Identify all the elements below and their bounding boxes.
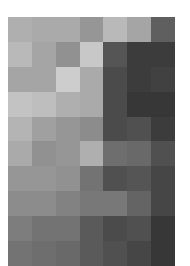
heatmap-cell — [32, 17, 56, 42]
heatmap-cell — [151, 42, 175, 67]
heatmap-cell — [127, 67, 151, 92]
heatmap-cell — [151, 191, 175, 216]
heatmap-cell — [151, 67, 175, 92]
heatmap-cell — [103, 216, 127, 241]
heatmap-cell — [80, 67, 104, 92]
heatmap-cell — [80, 166, 104, 191]
heatmap-cell — [8, 117, 32, 142]
heatmap-cell — [151, 141, 175, 166]
heatmap-cell — [127, 117, 151, 142]
heatmap-cell — [32, 67, 56, 92]
heatmap-cell — [103, 191, 127, 216]
heatmap-cell — [32, 141, 56, 166]
heatmap-cell — [103, 117, 127, 142]
heatmap-cell — [103, 166, 127, 191]
heatmap-cell — [32, 191, 56, 216]
heatmap-grid — [8, 17, 175, 266]
heatmap-cell — [80, 216, 104, 241]
heatmap-cell — [56, 191, 80, 216]
heatmap-cell — [80, 241, 104, 266]
heatmap-cell — [8, 216, 32, 241]
heatmap-cell — [103, 241, 127, 266]
heatmap-cell — [56, 117, 80, 142]
heatmap-cell — [8, 191, 32, 216]
heatmap-cell — [127, 241, 151, 266]
heatmap-cell — [56, 216, 80, 241]
heatmap-cell — [151, 117, 175, 142]
heatmap-cell — [32, 42, 56, 67]
heatmap-cell — [56, 17, 80, 42]
heatmap-cell — [151, 17, 175, 42]
heatmap-cell — [103, 67, 127, 92]
heatmap-cell — [103, 92, 127, 117]
heatmap-cell — [80, 117, 104, 142]
heatmap-cell — [32, 92, 56, 117]
heatmap-cell — [103, 17, 127, 42]
heatmap-cell — [127, 216, 151, 241]
heatmap-cell — [56, 42, 80, 67]
heatmap-cell — [8, 141, 32, 166]
heatmap-cell — [32, 117, 56, 142]
heatmap-cell — [8, 92, 32, 117]
heatmap-cell — [151, 166, 175, 191]
heatmap-cell — [56, 241, 80, 266]
heatmap-cell — [151, 216, 175, 241]
heatmap-cell — [80, 141, 104, 166]
heatmap-cell — [80, 92, 104, 117]
heatmap-cell — [8, 166, 32, 191]
heatmap-cell — [80, 17, 104, 42]
heatmap-cell — [127, 191, 151, 216]
heatmap-cell — [127, 166, 151, 191]
heatmap-cell — [8, 241, 32, 266]
heatmap-cell — [151, 241, 175, 266]
heatmap-cell — [32, 166, 56, 191]
heatmap-cell — [8, 42, 32, 67]
heatmap-cell — [56, 92, 80, 117]
heatmap-cell — [56, 141, 80, 166]
heatmap-cell — [32, 216, 56, 241]
heatmap-cell — [151, 92, 175, 117]
heatmap-cell — [103, 42, 127, 67]
heatmap-cell — [32, 241, 56, 266]
heatmap-cell — [80, 191, 104, 216]
heatmap-cell — [103, 141, 127, 166]
heatmap-cell — [127, 141, 151, 166]
heatmap-cell — [127, 92, 151, 117]
heatmap-cell — [56, 166, 80, 191]
heatmap-cell — [80, 42, 104, 67]
heatmap-cell — [56, 67, 80, 92]
heatmap-cell — [127, 42, 151, 67]
heatmap-cell — [8, 67, 32, 92]
heatmap-cell — [8, 17, 32, 42]
heatmap-cell — [127, 17, 151, 42]
